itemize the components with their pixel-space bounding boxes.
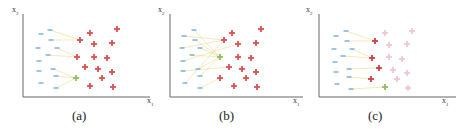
caption-c: (c) [368,108,382,124]
highlighted-sample-icon [382,84,388,90]
positive-sample-icon [95,66,101,72]
panel-c: x2 x1 (c) [306,0,459,129]
positive-sample-icon [369,55,375,61]
positive-sample-icon [253,40,259,46]
positive-sample-icon [82,64,88,70]
faded-positive-sample-icon [409,28,415,34]
caption-a: (a) [72,108,86,124]
neighbor-link [346,31,375,41]
caption-b: (b) [219,108,234,124]
x-axis-label-b: x1 [293,97,300,107]
positive-sample-icon [114,26,120,32]
neighbor-link [50,30,80,40]
faded-positive-sample-icon [394,76,400,82]
y-axis-label-b: x2 [158,6,165,16]
positive-sample-icon [235,54,241,60]
scatter-plot-c [306,0,459,129]
positive-sample-icon [376,65,382,71]
positive-sample-icon [87,83,93,89]
panel-a: x2 x1 (a) [0,0,153,129]
neighbor-link [200,78,220,88]
neighbor-link [183,44,238,61]
faded-positive-sample-icon [399,56,405,62]
positive-sample-icon [239,66,245,72]
positive-sample-icon [109,40,115,46]
neighbor-link [349,68,379,69]
positive-sample-icon [368,76,374,82]
positive-sample-icon [104,55,110,61]
faded-positive-sample-icon [386,54,392,60]
positive-sample-icon [77,37,83,43]
faded-positive-sample-icon [382,30,388,36]
neighbor-link [349,77,371,79]
neighbor-link [351,87,385,89]
faded-positive-sample-icon [405,85,411,91]
positive-sample-icon [235,41,241,47]
positive-sample-icon [91,54,97,60]
positive-sample-icon [91,41,97,47]
positive-sample-icon [74,54,80,60]
neighbor-link [56,78,76,88]
neighbor-link [184,36,224,40]
positive-sample-icon [243,75,249,81]
positive-sample-icon [258,26,264,32]
positive-sample-icon [253,69,259,75]
positive-sample-icon [254,84,260,90]
y-axis-label-a: x2 [12,6,19,16]
positive-sample-icon [231,83,237,89]
positive-sample-icon [226,64,232,70]
positive-sample-icon [248,55,254,61]
positive-sample-icon [372,38,378,44]
positive-sample-icon [87,30,93,36]
positive-sample-icon [109,69,115,75]
highlighted-sample-icon [73,75,79,81]
faded-positive-sample-icon [386,42,392,48]
y-axis-label-c: x2 [306,6,313,16]
positive-sample-icon [217,75,223,81]
panel-b: x2 x1 (b) [153,0,306,129]
x-axis-label-c: x1 [442,97,449,107]
faded-positive-sample-icon [404,41,410,47]
faded-positive-sample-icon [404,70,410,76]
positive-sample-icon [99,75,105,81]
faded-positive-sample-icon [390,67,396,73]
positive-sample-icon [229,30,235,36]
positive-sample-icon [110,84,116,90]
